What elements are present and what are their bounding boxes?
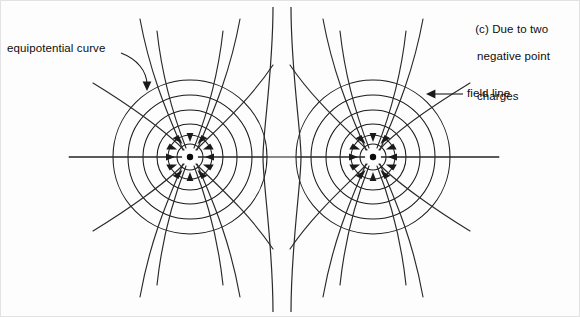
caption-line-1: (c) Due to two xyxy=(475,23,548,35)
caption-line-3: charges xyxy=(462,90,550,104)
equipotential-arrow xyxy=(121,53,151,91)
separatrix-field-lines xyxy=(263,7,301,312)
figure-root: equipotential curve field line (c) Due t… xyxy=(0,0,580,317)
caption-line-2: negative point xyxy=(462,50,550,64)
figure-caption: (c) Due to two negative point charges xyxy=(462,9,550,131)
right-negative-charge xyxy=(365,149,381,165)
equipotential-curve-label: equipotential curve xyxy=(7,42,105,56)
left-negative-charge xyxy=(182,149,198,165)
